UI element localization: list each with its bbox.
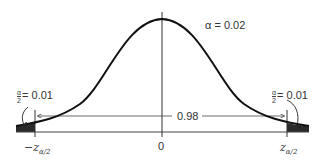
alpha-label: α = 0.02 — [205, 20, 245, 31]
left-tail-fraction: α2 — [17, 89, 21, 104]
right-critical-label: zα/2 — [280, 142, 297, 156]
left-critical-label: −zα/2 — [24, 142, 51, 156]
right-tail-fraction: α2 — [272, 89, 276, 104]
right-tail-label: α2= 0.01 — [272, 89, 308, 104]
center-label: 0 — [158, 141, 164, 152]
left-tail-label: α2= 0.01 — [17, 89, 53, 104]
left-pointer-arrow — [22, 107, 28, 125]
middle-area-label: 0.98 — [175, 111, 200, 122]
